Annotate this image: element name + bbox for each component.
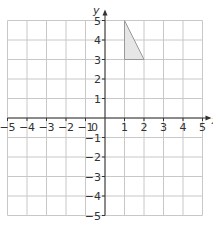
x-tick-label: −3: [38, 121, 54, 134]
y-tick-label: 4: [94, 34, 101, 47]
x-tick-label: 4: [180, 121, 187, 134]
x-tick-label: −2: [58, 121, 74, 134]
x-tick-label: 5: [199, 121, 206, 134]
y-tick-label: 5: [94, 15, 101, 28]
x-tick-label: 2: [141, 121, 148, 134]
y-tick-label: −5: [85, 210, 101, 223]
y-tick-label: −1: [85, 132, 101, 145]
x-tick-label: −5: [0, 121, 16, 134]
y-tick-label: 2: [94, 73, 101, 86]
x-axis-label: x: [211, 114, 214, 127]
y-tick-label: −2: [85, 151, 101, 164]
coordinate-grid: xy0−5−4−3−2−11234554321−1−2−3−4−5: [0, 0, 213, 225]
x-tick-label: 3: [160, 121, 167, 134]
y-tick-label: 3: [94, 54, 101, 67]
y-axis-arrow-icon: [103, 10, 108, 16]
x-tick-label: 1: [121, 121, 128, 134]
y-tick-label: 1: [94, 93, 101, 106]
x-tick-label: −4: [19, 121, 35, 134]
y-tick-label: −3: [85, 171, 101, 184]
y-tick-label: −4: [85, 190, 101, 203]
